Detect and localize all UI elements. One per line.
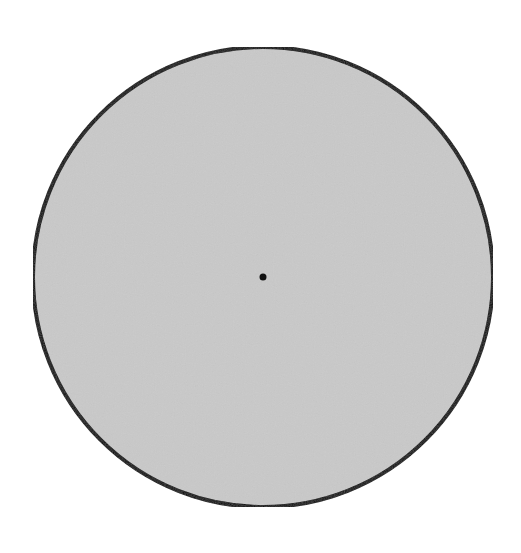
- center-point: [260, 274, 267, 281]
- diagram-canvas: [0, 0, 521, 553]
